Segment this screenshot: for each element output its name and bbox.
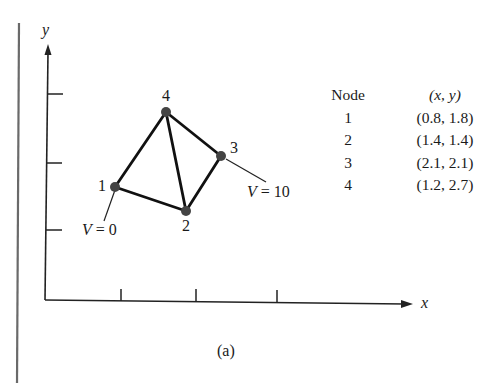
table-header: Node (x, y) (318, 86, 502, 109)
table-row: 2 (1.4, 1.4) (318, 131, 502, 154)
table-row: 4 (1.2, 2.7) (318, 176, 502, 199)
figure-caption: (a) (217, 342, 235, 360)
node-4-label: 4 (162, 88, 170, 104)
leader-line-v10 (226, 159, 266, 182)
page-margin-bar (17, 23, 19, 383)
header-xy: (x, y) (390, 86, 500, 104)
y-axis-label: y (42, 22, 49, 38)
cell-node: 2 (318, 131, 378, 149)
y-axis (45, 44, 64, 300)
y-axis-arrow-icon (45, 44, 52, 55)
node-1-dot-icon (110, 182, 120, 192)
boundary-label-node-1: VV = 0 = 0 (82, 222, 117, 238)
node-4-dot-icon (161, 107, 171, 117)
edge-1-4 (115, 112, 166, 187)
cell-node: 1 (318, 109, 378, 127)
cell-node: 4 (318, 176, 378, 194)
x-axis (45, 289, 413, 308)
table-row: 3 (2.1, 2.1) (318, 154, 502, 177)
cell-node: 3 (318, 154, 378, 172)
finite-element-mesh-figure: y x 1 2 3 4 VV = 0 = 0 VV = 10 = 10 Node… (0, 0, 502, 383)
cell-coords: (2.1, 2.1) (390, 154, 500, 172)
cell-coords: (1.4, 1.4) (390, 131, 500, 149)
x-axis-arrow-icon (401, 300, 413, 308)
boundary-label-node-3: VV = 10 = 10 (247, 184, 290, 200)
x-axis-label: x (421, 295, 428, 311)
mesh-edges (115, 112, 221, 211)
node-2-label: 2 (182, 218, 190, 234)
node-3-label: 3 (230, 140, 238, 156)
cell-coords: (0.8, 1.8) (390, 109, 500, 127)
node-coordinates-table: Node (x, y) 1 (0.8, 1.8) 2 (1.4, 1.4) 3 … (318, 86, 502, 199)
node-2-dot-icon (181, 206, 191, 216)
node-1-label: 1 (98, 178, 106, 194)
table-row: 1 (0.8, 1.8) (318, 109, 502, 132)
edge-2-3 (186, 156, 221, 211)
edge-1-2 (115, 187, 186, 211)
node-3-dot-icon (216, 151, 226, 161)
cell-coords: (1.2, 2.7) (390, 176, 500, 194)
leader-line-v0 (104, 190, 115, 221)
header-node: Node (318, 86, 378, 104)
